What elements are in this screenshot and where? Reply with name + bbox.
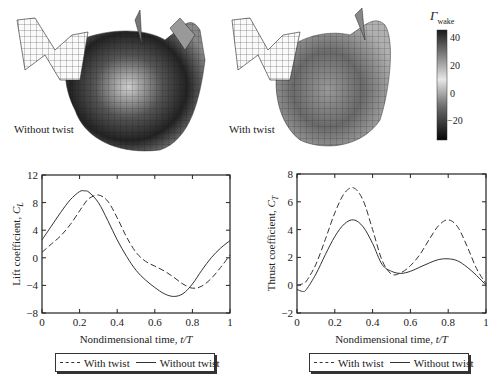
thrust-coefficient-chart: 00.20.40.60.8186420−2Nondimensional time…	[249, 160, 498, 350]
x-tick-label: 0	[39, 316, 45, 328]
colorbar-tick: 40	[450, 32, 460, 43]
panel-label-with-twist: With twist	[229, 123, 275, 135]
lift-coefficient-chart: 00.20.40.60.8112840−4−8Nondimensional ti…	[0, 160, 249, 350]
legend-item-without-twist: Without twist	[136, 357, 220, 369]
colorbar-tick: 20	[450, 60, 460, 71]
y-tick-label: 6	[288, 196, 294, 208]
x-tick-label: 0.6	[148, 316, 162, 328]
colorbar-tick: −20	[447, 115, 463, 126]
colorbar-tick: 0	[450, 88, 455, 99]
plot-area: 00.20.40.60.8112840−4−8Nondimensional ti…	[10, 169, 233, 345]
x-tick-label: 0.2	[73, 316, 87, 328]
x-tick-label: 0	[294, 316, 300, 328]
plot-frame	[297, 174, 486, 313]
y-axis-label: Thrust coefficient, CT	[265, 195, 280, 291]
without-twist-line	[42, 191, 230, 297]
y-tick-label: −2	[281, 307, 293, 319]
y-tick-label: 4	[288, 224, 294, 236]
x-tick-label: 0.4	[110, 316, 124, 328]
with-twist-line	[297, 188, 486, 286]
legend-item-with-twist: With twist	[314, 357, 384, 369]
y-tick-label: 0	[33, 252, 39, 264]
x-tick-label: 0.2	[328, 316, 342, 328]
x-axis-label: Nondimensional time, t/T	[80, 333, 194, 345]
legend-item-without-twist: Without twist	[390, 357, 474, 369]
panel-label-without-twist: Without twist	[14, 123, 74, 135]
x-tick-label: 1	[227, 316, 233, 328]
wake-visualizations	[0, 0, 498, 165]
y-tick-label: 8	[33, 197, 39, 209]
x-tick-label: 0.6	[404, 316, 418, 328]
legend-item-with-twist: With twist	[60, 357, 130, 369]
lift-chart-legend: With twist Without twist	[55, 353, 215, 372]
y-axis-label: Lift coefficient, CL	[10, 202, 25, 286]
x-tick-label: 0.8	[186, 316, 200, 328]
x-axis-label: Nondimensional time, t/T	[335, 333, 449, 345]
y-tick-label: 8	[288, 168, 294, 180]
x-tick-label: 0.8	[441, 316, 455, 328]
solid-line-icon	[136, 362, 156, 363]
y-tick-label: 4	[33, 224, 39, 236]
y-tick-label: −4	[26, 279, 38, 291]
y-tick-label: −8	[26, 307, 38, 319]
colorbar	[437, 30, 447, 140]
without-twist-line	[297, 220, 486, 292]
thrust-chart-legend: With twist Without twist	[309, 353, 469, 372]
plot-frame	[42, 175, 230, 313]
x-tick-label: 0.4	[366, 316, 380, 328]
colorbar-title: Γwake	[430, 8, 454, 26]
dashed-line-icon	[60, 362, 80, 363]
solid-line-icon	[390, 362, 410, 363]
x-tick-label: 1	[483, 316, 489, 328]
with-twist-line	[42, 195, 230, 288]
dashed-line-icon	[314, 362, 334, 363]
y-tick-label: 12	[27, 169, 38, 181]
y-tick-label: 0	[288, 279, 294, 291]
plot-area: 00.20.40.60.8186420−2Nondimensional time…	[265, 168, 489, 345]
y-tick-label: 2	[288, 251, 294, 263]
